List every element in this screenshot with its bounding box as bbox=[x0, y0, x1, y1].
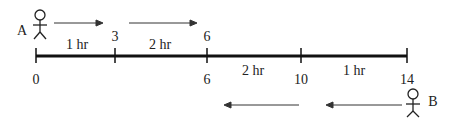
bottom-tick-label: 10 bbox=[294, 73, 308, 87]
top-segment-label: 1 hr bbox=[66, 38, 88, 52]
arrow-right-icon bbox=[54, 20, 103, 26]
bottom-segment-label: 2 hr bbox=[242, 64, 264, 78]
top-tick-label: 6 bbox=[204, 30, 211, 44]
top-segment-label: 2 hr bbox=[149, 38, 171, 52]
person-b-icon bbox=[406, 89, 420, 117]
arrow-left-icon bbox=[224, 102, 299, 108]
top-tick-label: 3 bbox=[112, 30, 119, 44]
bottom-segment-label: 1 hr bbox=[343, 64, 365, 78]
person-b-label: B bbox=[428, 95, 437, 109]
timeline-diagram bbox=[0, 0, 449, 124]
person-a-icon bbox=[33, 10, 47, 39]
bottom-tick-label: 0 bbox=[33, 73, 40, 87]
arrow-left-icon bbox=[326, 102, 402, 108]
person-a-label: A bbox=[17, 24, 27, 38]
bottom-tick-label: 14 bbox=[400, 73, 414, 87]
arrow-right-icon bbox=[129, 20, 197, 26]
bottom-tick-label: 6 bbox=[204, 73, 211, 87]
